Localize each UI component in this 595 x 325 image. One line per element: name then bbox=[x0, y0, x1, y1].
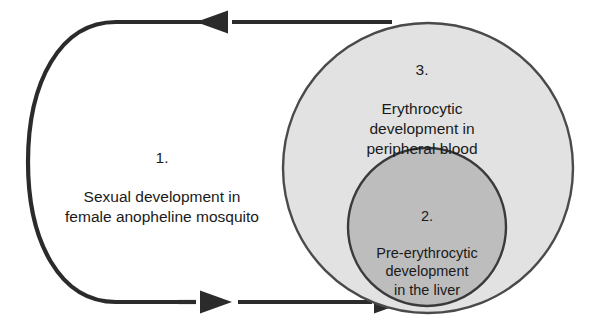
stage-1-label: 1. Sexual development in female anopheli… bbox=[46, 128, 278, 247]
stage-3-label: 3. Erythrocytic development in periphera… bbox=[322, 40, 522, 179]
arrow-bottom-head-first-icon bbox=[200, 291, 232, 314]
lifecycle-diagram: 1. Sexual development in female anopheli… bbox=[0, 0, 595, 325]
stage-1-text: Sexual development in female anopheline … bbox=[46, 187, 278, 227]
stage-1-number: 1. bbox=[46, 148, 278, 168]
stage-3-number: 3. bbox=[322, 60, 522, 80]
stage-2-label: 2. Pre-erythrocytic development in the l… bbox=[356, 188, 498, 318]
stage-2-number: 2. bbox=[356, 207, 498, 226]
stage-3-text: Erythrocytic development in peripheral b… bbox=[322, 99, 522, 158]
arrow-top-head-icon bbox=[196, 11, 228, 34]
stage-2-text: Pre-erythrocytic development in the live… bbox=[356, 244, 498, 300]
